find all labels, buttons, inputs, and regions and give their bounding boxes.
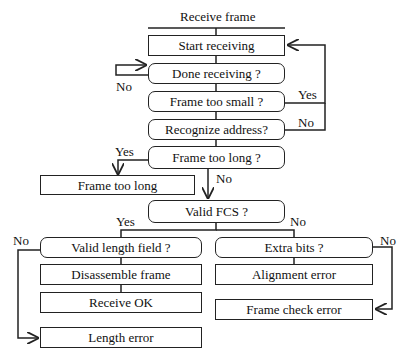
node-frame-too-long: Frame too long (40, 175, 195, 195)
node-disassemble-frame: Disassemble frame (40, 264, 202, 285)
node-extra-bits: Extra bits ? (215, 237, 373, 258)
diagram-title: Receive frame (180, 10, 255, 23)
node-frame-too-small: Frame too small ? (148, 91, 285, 112)
edge-label-extra-no: No (380, 234, 396, 247)
node-valid-length-field: Valid length field ? (40, 237, 202, 258)
node-alignment-error: Alignment error (215, 264, 373, 285)
node-valid-fcs: Valid FCS ? (148, 200, 285, 223)
node-recognize-address: Recognize address? (148, 119, 285, 140)
node-start-receiving: Start receiving (148, 35, 285, 56)
edge-label-long-no: No (216, 172, 232, 185)
edge-label-done-no: No (116, 80, 132, 93)
node-frame-too-long-question: Frame too long ? (148, 146, 285, 169)
node-frame-check-error: Frame check error (215, 299, 373, 320)
node-receive-ok: Receive OK (40, 292, 202, 313)
node-done-receiving: Done receiving ? (148, 63, 285, 84)
edge-label-long-yes: Yes (115, 145, 134, 158)
edge-label-small-yes: Yes (298, 88, 317, 101)
edge-label-length-no: No (13, 234, 29, 247)
edge-label-fcs-no: No (290, 215, 306, 228)
edge-label-address-no: No (298, 116, 314, 129)
node-length-error: Length error (40, 327, 202, 348)
edge-label-fcs-yes: Yes (116, 215, 135, 228)
